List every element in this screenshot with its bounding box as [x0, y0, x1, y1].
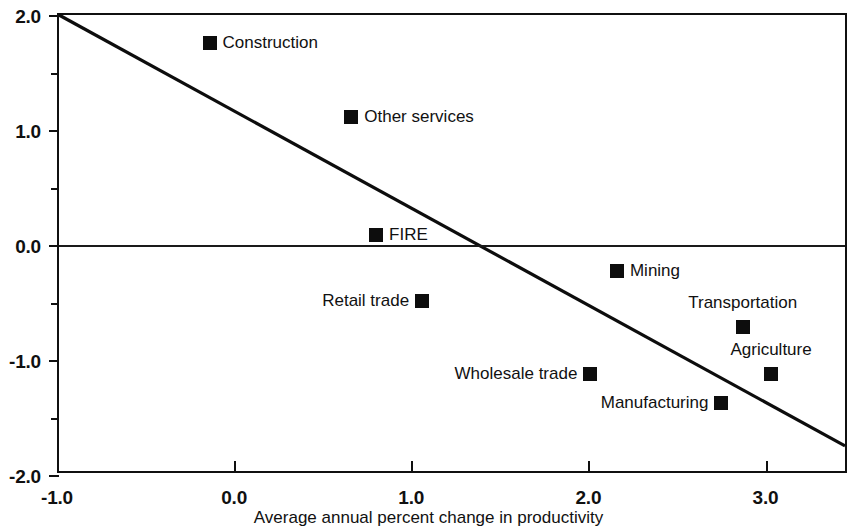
- y-axis-minor-tick: [51, 73, 59, 75]
- y-axis-tick-label: 1.0: [15, 121, 41, 143]
- y-axis-tick: -1.0: [49, 360, 59, 362]
- y-axis-minor-tick: [51, 188, 59, 190]
- trend-line: [59, 15, 845, 446]
- data-point-marker: [764, 367, 778, 381]
- x-axis-tick-label: 2.0: [575, 487, 601, 509]
- x-axis-tick: [234, 461, 236, 473]
- data-point-label: Agriculture: [730, 340, 811, 360]
- data-point-marker: [415, 294, 429, 308]
- data-point-marker: [714, 396, 728, 410]
- x-axis-tick: [57, 461, 59, 473]
- y-axis-tick: 2.0: [49, 15, 59, 17]
- data-point-label: Transportation: [688, 293, 797, 313]
- data-point-marker: [736, 320, 750, 334]
- data-point-label: Construction: [223, 33, 318, 53]
- data-point-marker: [369, 228, 383, 242]
- data-point-label: Mining: [630, 261, 680, 281]
- x-axis-tick-label: 3.0: [753, 487, 779, 509]
- x-axis-tick-label: 1.0: [398, 487, 424, 509]
- data-point-marker: [610, 264, 624, 278]
- y-axis-tick: 0.0: [49, 245, 59, 247]
- y-axis-minor-tick: [51, 303, 59, 305]
- x-axis-title: Average annual percent change in product…: [0, 508, 857, 528]
- data-point-label: Wholesale trade: [455, 364, 578, 384]
- y-axis-tick: 1.0: [49, 130, 59, 132]
- y-axis-tick-label: 0.0: [15, 236, 41, 258]
- y-axis-minor-tick: [51, 418, 59, 420]
- scatter-chart-figure: 2.01.00.0-1.0-2.0 ConstructionOther serv…: [0, 0, 857, 531]
- zero-reference-line: [59, 245, 845, 247]
- x-axis-tick-label: -1.0: [41, 487, 73, 509]
- data-point-marker: [203, 36, 217, 50]
- data-point-label: Other services: [364, 107, 474, 127]
- y-axis-tick-label: -2.0: [9, 466, 41, 488]
- data-point-marker: [583, 367, 597, 381]
- data-point-label: Manufacturing: [601, 393, 709, 413]
- plot-area: 2.01.00.0-1.0-2.0 ConstructionOther serv…: [57, 13, 847, 473]
- data-point-label: Retail trade: [322, 291, 409, 311]
- x-axis-tick: [588, 461, 590, 473]
- data-point-marker: [344, 110, 358, 124]
- x-axis-tick: [766, 461, 768, 473]
- y-axis-tick-label: 2.0: [15, 6, 41, 28]
- y-axis-tick-label: -1.0: [9, 351, 41, 373]
- x-axis-tick: [411, 461, 413, 473]
- data-point-label: FIRE: [389, 225, 428, 245]
- x-axis-tick-label: 0.0: [221, 487, 247, 509]
